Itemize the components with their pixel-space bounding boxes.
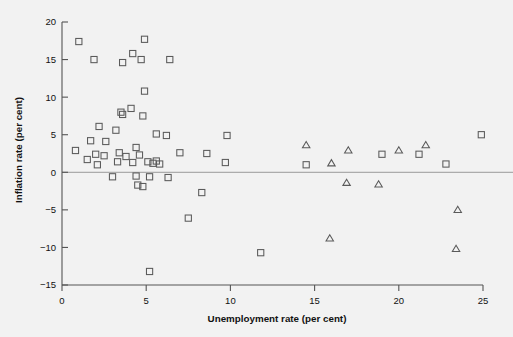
data-point-square [258,250,264,256]
data-point-square [379,151,385,157]
data-point-square [185,215,191,221]
data-point-square [114,159,120,165]
y-axis-tick-labels: 20151050−5−10−15 [40,16,56,290]
data-point-square [222,159,228,165]
y-tick-label: −5 [45,204,56,215]
data-point-square [224,132,230,138]
y-tick-label: −10 [40,242,56,253]
data-markers [72,36,484,274]
y-tick-label: −15 [40,279,56,290]
data-point-square [165,174,171,180]
data-point-square [140,113,146,119]
data-point-square [103,138,109,144]
data-point-square [120,59,126,65]
data-point-square [146,268,152,274]
data-point-square [130,159,136,165]
x-tick-label: 5 [144,295,149,306]
data-point-square [91,56,97,62]
x-tick-label: 0 [59,295,64,306]
x-tick-label: 10 [225,295,236,306]
data-point-square [443,161,449,167]
data-point-square [118,109,124,115]
y-tick-label: 5 [51,129,56,140]
data-point-square [94,162,100,168]
data-point-square [303,162,309,168]
data-point-square [153,131,159,137]
data-point-square [141,88,147,94]
data-point-square [96,123,102,129]
data-point-square [130,50,136,56]
data-point-square [136,152,142,158]
y-tick-label: 15 [45,54,56,65]
data-point-square [133,173,139,179]
data-point-square [163,132,169,138]
data-point-square [84,156,90,162]
x-axis-tick-labels: 0510152025 [59,295,488,306]
data-point-square [133,144,139,150]
data-point-triangle [395,147,402,153]
data-point-square [120,111,126,117]
data-point-square [128,105,134,111]
data-point-square [88,138,94,144]
data-point-square [76,38,82,44]
data-point-square [199,189,205,195]
y-tick-label: 0 [51,167,56,178]
data-point-square [177,150,183,156]
data-point-triangle [422,142,429,148]
data-point-square [113,127,119,133]
y-tick-label: 20 [45,16,56,27]
data-point-square [478,132,484,138]
data-point-square [101,153,107,159]
data-point-triangle [302,142,309,148]
y-axis-title: Inflation rate (per cent) [13,97,24,203]
x-axis-title: Unemployment rate (per cent) [208,313,347,324]
data-point-square [416,151,422,157]
data-point-square [109,174,115,180]
data-point-triangle [345,147,352,153]
data-point-square [204,150,210,156]
data-point-square [93,151,99,157]
data-point-triangle [375,181,382,187]
x-tick-label: 15 [309,295,320,306]
data-point-square [138,56,144,62]
data-point-square [146,174,152,180]
data-point-square [116,150,122,156]
data-point-square [72,147,78,153]
data-point-square [167,56,173,62]
x-tick-label: 25 [478,295,489,306]
data-point-triangle [452,245,459,251]
data-point-square [141,36,147,42]
scatter-chart-figure: 0510152025 20151050−5−10−15 Unemployment… [0,0,513,337]
data-point-triangle [326,235,333,241]
y-tick-label: 10 [45,92,56,103]
data-point-triangle [328,160,335,166]
plot-canvas: 0510152025 20151050−5−10−15 Unemployment… [0,0,513,337]
data-point-triangle [343,179,350,185]
data-point-triangle [454,206,461,212]
x-tick-label: 20 [394,295,405,306]
axis-ticks [62,22,483,291]
data-point-square [123,153,129,159]
